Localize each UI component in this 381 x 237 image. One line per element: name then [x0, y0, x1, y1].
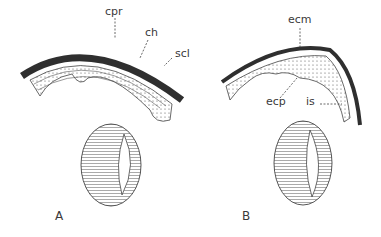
panel-b-lens	[274, 121, 332, 205]
panel-b-eye-cup	[222, 28, 360, 125]
caption-b: B	[242, 210, 250, 222]
label-cpr: cpr	[105, 6, 123, 17]
figure-canvas	[0, 0, 381, 237]
retina-layers	[30, 66, 172, 122]
label-ecp: ecp	[266, 96, 286, 107]
label-ecm: ecm	[288, 14, 312, 25]
label-ch: ch	[145, 27, 158, 38]
label-scl: scl	[175, 48, 190, 59]
panel-a-lens	[81, 124, 141, 206]
caption-a: A	[55, 210, 63, 222]
label-is: is	[306, 96, 315, 107]
